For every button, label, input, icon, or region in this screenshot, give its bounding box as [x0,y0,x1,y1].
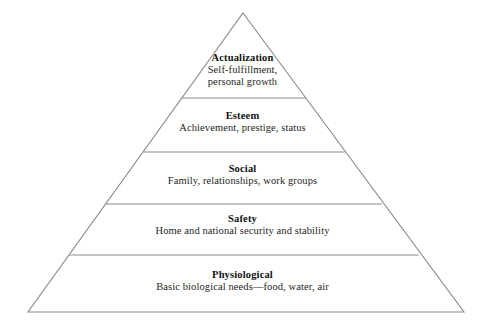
maslow-pyramid-diagram: Actualization Self-fulfillment, personal… [0,0,485,326]
pyramid-outline-svg [0,0,485,326]
pyramid-outline [28,13,464,312]
